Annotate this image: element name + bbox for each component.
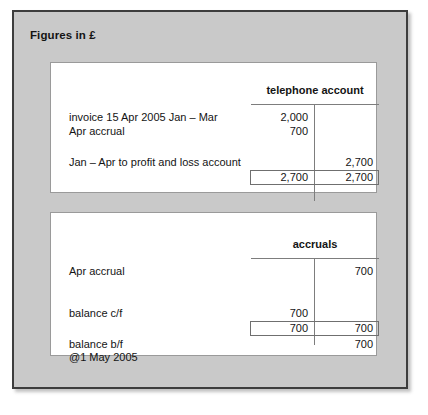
- t-account-accruals: accruals Apr accrual 700 balance c/f 700…: [51, 213, 376, 355]
- ledger-card-telephone-account: telephone account invoice 15 Apr 2005 Ja…: [50, 62, 377, 193]
- balance-bf-credit: 700: [317, 338, 373, 350]
- ledger-row-label: invoice 15 Apr 2005 Jan – Mar: [69, 111, 218, 123]
- account-title-telephone: telephone account: [251, 84, 379, 96]
- totals-credit: 700: [317, 322, 373, 334]
- ledger-row-label: Apr accrual: [69, 125, 125, 137]
- totals-debit: 700: [252, 322, 308, 334]
- ledger-card-accruals-account: accruals Apr accrual 700 balance c/f 700…: [50, 212, 377, 356]
- ledger-row-label: Jan – Apr to profit and loss account: [69, 156, 241, 168]
- ledger-row-credit: 2,700: [317, 156, 373, 168]
- t-account-telephone: telephone account invoice 15 Apr 2005 Ja…: [51, 63, 376, 192]
- totals-debit: 2,700: [252, 171, 308, 183]
- ledger-row-debit: 2,000: [252, 111, 308, 123]
- header-rule: [251, 258, 379, 259]
- ledger-row-label: Apr accrual: [69, 265, 125, 277]
- ledger-row-label: balance c/f: [69, 307, 122, 319]
- ledger-row-credit: 700: [317, 265, 373, 277]
- column-divider: [314, 104, 315, 201]
- figures-panel: Figures in £ telephone account invoice 1…: [12, 10, 408, 389]
- ledger-row-debit: 700: [252, 307, 308, 319]
- account-title-accruals: accruals: [251, 238, 379, 250]
- ledger-row-debit: 700: [252, 125, 308, 137]
- totals-credit: 2,700: [317, 171, 373, 183]
- header-rule: [251, 104, 379, 105]
- page-title: Figures in £: [30, 29, 96, 41]
- balance-bf-label-line1: balance b/f: [69, 338, 123, 350]
- balance-bf-label-line2: @1 May 2005: [69, 351, 138, 363]
